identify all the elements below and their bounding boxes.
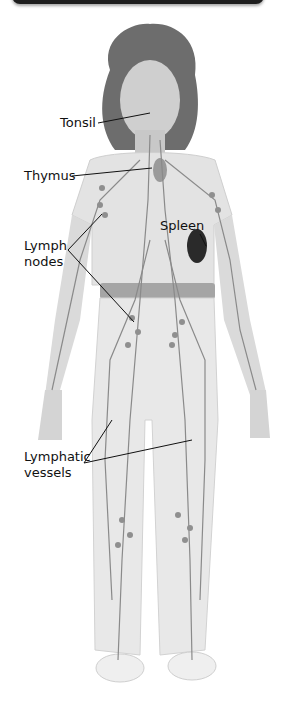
belt (100, 283, 215, 299)
spleen (187, 229, 207, 263)
lymphatic-system-figure (0, 0, 287, 717)
label-lymph-nodes-line2: nodes (24, 254, 67, 270)
right-arm (214, 215, 266, 395)
pants (92, 298, 218, 655)
label-lymphatic-vessels-line2: vessels (24, 465, 91, 481)
label-lymphatic-vessels-line1: Lymphatic (24, 449, 91, 465)
face (120, 60, 180, 140)
label-lymph-nodes-line1: Lymph (24, 238, 67, 254)
label-lymph-nodes: Lymph nodes (24, 238, 67, 270)
left-shoe (96, 654, 144, 682)
label-spleen: Spleen (160, 218, 204, 234)
label-thymus: Thymus (24, 168, 76, 184)
right-hand (250, 390, 270, 438)
torso (72, 153, 232, 286)
label-lymphatic-vessels: Lymphatic vessels (24, 449, 91, 481)
left-hand (38, 390, 62, 440)
thymus (153, 158, 167, 182)
label-tonsil: Tonsil (60, 115, 96, 131)
